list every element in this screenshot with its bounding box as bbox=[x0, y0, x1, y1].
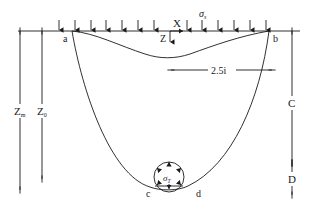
surface-load-label: σs bbox=[199, 8, 207, 20]
cover-label: C bbox=[288, 97, 295, 109]
z-axis-label: Z bbox=[160, 33, 166, 44]
point-b-label: b bbox=[273, 33, 278, 44]
tunnel-pressure-arrows bbox=[157, 162, 181, 189]
settlement-trough-curve bbox=[72, 31, 269, 58]
point-d-label: d bbox=[196, 188, 201, 199]
support-pressure-label: σT bbox=[163, 173, 171, 184]
failure-mechanism-boundary bbox=[72, 31, 269, 190]
width-label: 2.5i bbox=[211, 65, 227, 76]
tunnel-failure-diagram: σs X Z σT a b c d Zm Z0 2.5i C bbox=[0, 0, 311, 209]
point-c-label: c bbox=[146, 188, 151, 199]
point-a-label: a bbox=[63, 33, 68, 44]
diameter-label: D bbox=[288, 173, 296, 185]
x-axis-label: X bbox=[173, 17, 181, 29]
surface-load-arrows bbox=[59, 20, 266, 30]
